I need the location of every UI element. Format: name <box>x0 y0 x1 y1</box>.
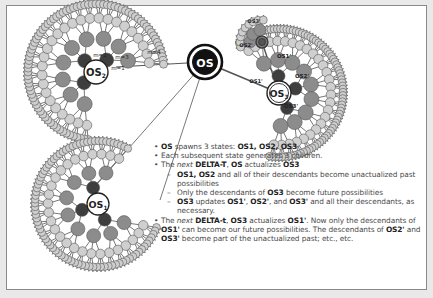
os1-node-d2 <box>60 191 74 205</box>
os1-node-d3 <box>79 151 89 161</box>
os1-node-d1 <box>87 181 100 194</box>
os1-node-d2 <box>104 226 118 240</box>
depth-label-m3: m=3 <box>115 54 129 60</box>
os3-node-d2 <box>287 115 302 130</box>
os1-node-d2 <box>99 166 113 180</box>
label-os1prime: OS1' <box>277 53 291 59</box>
depth-label-m1: m=1 <box>111 65 124 71</box>
os1-node-d2 <box>87 229 101 243</box>
subnote-future: Only the descendants of OS3 become futur… <box>153 188 429 197</box>
os2-node-d2 <box>64 40 79 55</box>
os2-node-d3 <box>37 70 47 80</box>
os1-node-d2 <box>117 216 131 230</box>
label-os3prime-past: OS3' <box>247 18 261 24</box>
os2-node-d3 <box>85 13 95 23</box>
os1-node-d3 <box>113 245 123 255</box>
os2-node-d3 <box>38 79 48 89</box>
os2-node-d3 <box>37 61 47 71</box>
os2-node-d2 <box>96 31 111 46</box>
label-os1prime-past: OS1' <box>249 78 263 84</box>
os3-past-node-d1 <box>254 24 266 36</box>
os3-node-d2 <box>256 56 271 71</box>
os2-node-d2 <box>55 72 70 87</box>
depth-label-m4: m=4 <box>147 49 161 55</box>
root-os-label: OS <box>196 57 213 70</box>
os2-node-d4 <box>160 60 168 68</box>
label-os3prime: OS3' <box>284 103 298 109</box>
subnote-unactualized: OS1, OS2 and all of their descendants be… <box>153 170 429 188</box>
os3-node-d2 <box>304 92 319 107</box>
os1-node-d2 <box>67 175 81 189</box>
os3-node-d2 <box>303 77 318 92</box>
os2-node-d3 <box>94 13 104 23</box>
note-spawn: OS spawns 3 states: OS1, OS2, OS3 <box>153 142 429 151</box>
os1-node-d2 <box>82 166 96 180</box>
label-os2prime-past: OS2' <box>239 42 253 48</box>
os3-node-d2 <box>273 118 288 133</box>
os1-node-d3 <box>88 150 98 160</box>
os1-node-d3 <box>97 149 107 159</box>
os1-node-d3 <box>106 151 116 161</box>
os2-node-d2 <box>79 32 94 47</box>
note-next-delta-2: The next DELTA-t, OS3 actualizes OS1'. N… <box>153 216 429 244</box>
os1-node-d3 <box>43 199 53 209</box>
os2-node-d2 <box>56 55 71 70</box>
explanation-notes: OS spawns 3 states: OS1, OS2, OS3 Each s… <box>153 142 429 243</box>
note-next-delta: The next DELTA-T, OS actualizes OS3 <box>153 160 429 169</box>
os1-node-d4 <box>124 145 132 153</box>
os2-node-d3 <box>82 120 92 130</box>
os2-node-d3 <box>76 15 86 25</box>
os1-node-d3 <box>86 249 96 259</box>
os2-node-d2 <box>63 87 78 102</box>
os2-node-d2 <box>77 97 92 112</box>
os1-node-d2 <box>71 222 85 236</box>
os1-node-d3 <box>46 216 56 226</box>
os1-node-d3 <box>95 249 105 259</box>
subnote-updates: OS3 updates OS1', OS2', and OS3' and all… <box>153 197 429 215</box>
depth-label-m2: m=2 <box>93 52 106 58</box>
os2-node-d3 <box>144 58 154 68</box>
os1-node-d3 <box>114 154 124 164</box>
os2-node-d2 <box>111 39 126 54</box>
os1-node-d3 <box>44 190 54 200</box>
os1-node-d3 <box>44 208 54 218</box>
os1-node-d2 <box>61 208 75 222</box>
label-os2prime: OS2' <box>295 73 309 79</box>
note-children: Each subsequent state generates 3 childr… <box>153 151 429 160</box>
os1-node-d3 <box>104 248 114 258</box>
